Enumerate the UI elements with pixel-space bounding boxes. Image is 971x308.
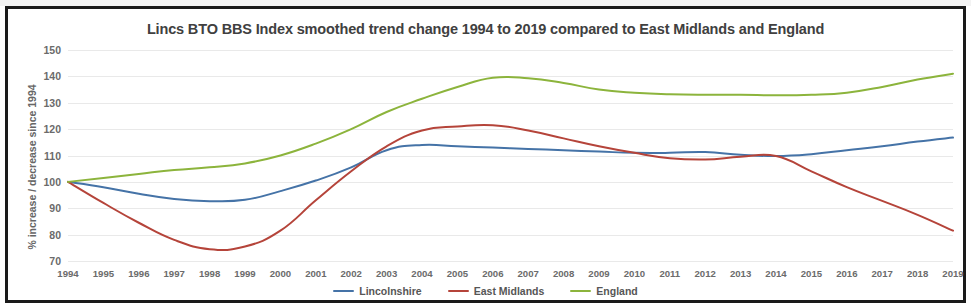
y-tick-label: 80 [49,229,61,241]
x-tick-label: 2013 [730,268,751,279]
x-tick-label: 2000 [270,268,291,279]
x-tick-label: 2005 [447,268,468,279]
gridline [68,261,953,262]
plot-area: 150140130120110100908070 199419951996199… [68,50,953,261]
x-tick-label: 2008 [553,268,574,279]
series-lines [68,50,953,261]
chart-container: Lincs BTO BBS Index smoothed trend chang… [8,9,963,300]
chart-frame: Lincs BTO BBS Index smoothed trend chang… [5,6,966,303]
legend-swatch-icon [448,290,469,293]
x-tick-label: 1998 [199,268,220,279]
screenshot-root: Lincs BTO BBS Index smoothed trend chang… [0,0,971,308]
x-tick-label: 2010 [624,268,645,279]
legend-item[interactable]: East Midlands [448,285,545,297]
y-tick-label: 140 [43,70,61,82]
x-tick-label: 2003 [376,268,397,279]
x-tick-label: 2017 [872,268,893,279]
x-tick-label: 2012 [695,268,716,279]
series-line-east-midlands [68,125,953,250]
x-tick-label: 2009 [588,268,609,279]
x-tick-label: 2018 [907,268,928,279]
x-tick-label: 1996 [128,268,149,279]
x-tick-label: 2001 [305,268,326,279]
x-tick-label: 1994 [57,268,78,279]
legend-label: England [596,285,637,297]
legend-swatch-icon [570,290,591,293]
x-tick-label: 2014 [765,268,786,279]
legend-item[interactable]: England [570,285,637,297]
x-tick-label: 1999 [234,268,255,279]
x-tick-label: 1997 [164,268,185,279]
y-tick-label: 70 [49,255,61,267]
legend-swatch-icon [333,290,354,293]
x-tick-label: 2002 [341,268,362,279]
x-tick-label: 2015 [801,268,822,279]
legend-label: Lincolnshire [359,285,421,297]
y-tick-label: 110 [44,150,61,162]
series-line-lincolnshire [68,138,953,202]
x-tick-label: 2004 [411,268,432,279]
y-tick-label: 120 [43,123,61,135]
x-tick-label: 2006 [482,268,503,279]
y-axis-title: % increase / decrease since 1994 [26,67,38,267]
x-tick-label: 2007 [518,268,539,279]
y-tick-label: 90 [49,202,61,214]
chart-title: Lincs BTO BBS Index smoothed trend chang… [8,21,963,37]
legend-item[interactable]: Lincolnshire [333,285,421,297]
y-tick-label: 130 [43,97,61,109]
y-tick-label: 150 [43,44,61,56]
x-tick-label: 2016 [836,268,857,279]
y-tick-label: 100 [43,176,61,188]
x-tick-label: 2011 [659,268,680,279]
chart-legend: LincolnshireEast MidlandsEngland [8,285,963,297]
x-tick-label: 2019 [942,268,963,279]
x-tick-label: 1995 [93,268,114,279]
legend-label: East Midlands [474,285,545,297]
chart-frame-inner: Lincs BTO BBS Index smoothed trend chang… [8,9,963,300]
